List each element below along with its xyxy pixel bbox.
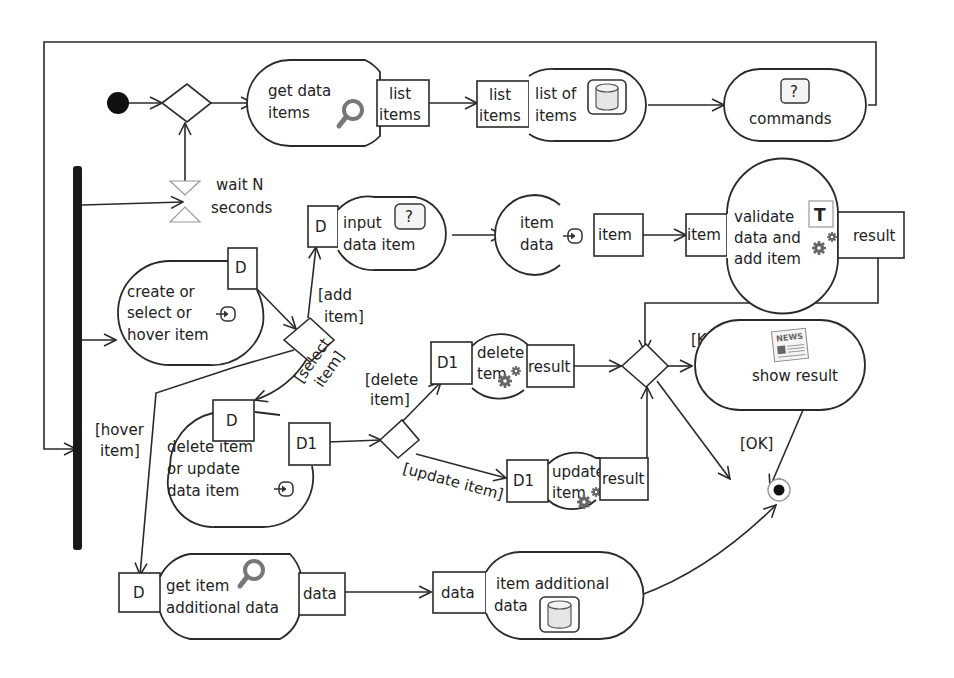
wait-label-2: seconds bbox=[211, 199, 272, 217]
svg-text:?: ? bbox=[790, 83, 798, 101]
edge-show-final bbox=[770, 410, 803, 487]
svg-text:data item: data item bbox=[167, 482, 239, 500]
guard-add-item-2: item] bbox=[324, 308, 364, 326]
merge-node-top bbox=[162, 84, 211, 122]
pin-d1-update: D1 bbox=[507, 460, 548, 502]
wait-label: wait N bbox=[216, 176, 264, 194]
pin-data-out: data bbox=[299, 573, 345, 615]
start-node bbox=[107, 92, 129, 114]
question-icon: ? bbox=[395, 204, 425, 229]
svg-text:data item: data item bbox=[343, 236, 415, 254]
action-get-data-items[interactable]: get data items bbox=[247, 60, 380, 146]
svg-text:D: D bbox=[315, 218, 327, 236]
guard-hover-item-2: item] bbox=[100, 442, 140, 460]
merge-node-result bbox=[622, 344, 668, 387]
svg-text:data: data bbox=[441, 584, 475, 602]
question-icon: ? bbox=[781, 79, 809, 103]
svg-text:select or: select or bbox=[127, 304, 193, 322]
svg-text:show result: show result bbox=[752, 367, 838, 385]
input-icon bbox=[563, 229, 582, 243]
guard-add-item: [add bbox=[318, 286, 352, 304]
svg-text:commands: commands bbox=[749, 110, 832, 128]
action-list-of-items[interactable]: list of items bbox=[529, 69, 646, 141]
action-item-data[interactable]: item data bbox=[495, 195, 582, 275]
pin-result-delete: result bbox=[527, 345, 574, 387]
pin-item-out: item bbox=[594, 214, 643, 256]
task-badge-icon: T bbox=[809, 201, 833, 227]
news-icon: NEWS bbox=[772, 328, 809, 361]
pin-d-get-additional: D bbox=[119, 573, 160, 612]
svg-text:result: result bbox=[602, 470, 645, 488]
svg-text:or update: or update bbox=[167, 460, 240, 478]
edge-fork-wait bbox=[82, 202, 183, 205]
svg-text:D: D bbox=[226, 412, 238, 430]
svg-text:items: items bbox=[268, 104, 310, 122]
action-show-result[interactable]: NEWS show result bbox=[695, 320, 865, 410]
svg-text:D1: D1 bbox=[437, 354, 458, 372]
guard-delete-item: [delete bbox=[365, 371, 418, 389]
svg-text:additional data: additional data bbox=[166, 599, 279, 617]
svg-text:delete: delete bbox=[477, 344, 524, 362]
edge-d1-decision bbox=[328, 440, 381, 442]
fork-bar bbox=[73, 166, 82, 550]
action-get-item-additional[interactable]: get item additional data bbox=[160, 554, 301, 639]
action-item-additional-data[interactable]: item additional data bbox=[486, 552, 644, 639]
pin-data-in: data bbox=[433, 572, 486, 613]
svg-text:list of: list of bbox=[535, 85, 577, 103]
svg-text:get item: get item bbox=[166, 577, 229, 595]
guard-hover-item: [hover bbox=[95, 421, 145, 439]
action-validate-add[interactable]: validate data and add item T bbox=[727, 159, 838, 314]
svg-text:items: items bbox=[379, 106, 421, 124]
action-input-data-item[interactable]: input data item ? bbox=[338, 196, 446, 270]
svg-text:result: result bbox=[853, 227, 896, 245]
pin-result-validate: result bbox=[838, 212, 904, 258]
svg-text:D1: D1 bbox=[296, 435, 317, 453]
database-icon bbox=[588, 80, 626, 114]
pin-result-update: result bbox=[600, 458, 648, 500]
pin-d-input: D bbox=[308, 206, 338, 247]
svg-text:result: result bbox=[528, 358, 571, 376]
pin-d-create: D bbox=[228, 248, 257, 289]
action-delete-item[interactable]: delete tem bbox=[472, 334, 528, 399]
svg-text:data: data bbox=[494, 597, 528, 615]
pin-d1-out: D1 bbox=[289, 423, 330, 465]
pin-item-in: item bbox=[686, 214, 727, 256]
guard-delete-item-2: item] bbox=[370, 391, 410, 409]
activity-diagram: wait N seconds get data items list items… bbox=[0, 0, 954, 678]
svg-text:D: D bbox=[235, 259, 247, 277]
svg-text:T: T bbox=[814, 205, 826, 225]
database-icon bbox=[540, 597, 579, 632]
svg-text:D1: D1 bbox=[513, 472, 534, 490]
svg-text:validate: validate bbox=[734, 208, 794, 226]
edge-additional-final bbox=[641, 505, 776, 595]
svg-text:list: list bbox=[489, 86, 511, 104]
svg-text:items: items bbox=[535, 107, 577, 125]
pin-list-items-out: list items bbox=[377, 80, 429, 126]
svg-text:item: item bbox=[687, 226, 721, 244]
pin-d-delete-update: D bbox=[213, 400, 254, 441]
svg-text:item additional: item additional bbox=[496, 575, 609, 593]
svg-text:list: list bbox=[389, 85, 411, 103]
svg-text:hover item: hover item bbox=[127, 326, 209, 344]
final-node bbox=[768, 479, 790, 501]
svg-text:input: input bbox=[343, 214, 382, 232]
guard-ok: [OK] bbox=[740, 435, 773, 453]
action-commands[interactable]: ? commands bbox=[724, 69, 866, 141]
svg-text:data and: data and bbox=[734, 229, 801, 247]
guard-update-item: [update item] bbox=[401, 459, 505, 503]
pin-list-items-in: list items bbox=[477, 81, 529, 127]
svg-text:add item: add item bbox=[734, 250, 801, 268]
svg-text:D: D bbox=[133, 584, 145, 602]
decision-node-delete-update bbox=[380, 420, 419, 458]
svg-text:item: item bbox=[520, 214, 554, 232]
action-update-item[interactable]: update item bbox=[548, 453, 605, 510]
svg-text:data: data bbox=[303, 585, 337, 603]
edge-add-item bbox=[308, 247, 316, 318]
svg-text:data: data bbox=[520, 236, 554, 254]
svg-text:get data: get data bbox=[268, 82, 331, 100]
pin-d1-delete: D1 bbox=[431, 342, 472, 384]
svg-text:?: ? bbox=[405, 208, 413, 226]
svg-text:item: item bbox=[598, 226, 632, 244]
svg-text:create or: create or bbox=[127, 283, 196, 301]
svg-text:update: update bbox=[552, 463, 605, 481]
